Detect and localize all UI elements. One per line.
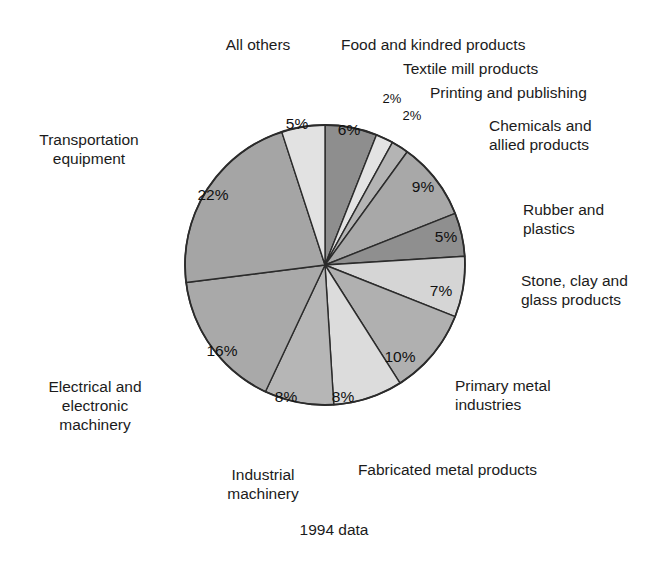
pie-slice-value-label: 6% [338, 121, 361, 138]
pie-slice-value-label: 7% [430, 282, 453, 299]
callout-chemicals-and-allied-products: Chemicals and allied products [489, 117, 664, 155]
pie-slice-value-label: 5% [435, 228, 458, 245]
callout-electrical-and-electronic-machinery: Electrical and electronic machinery [20, 378, 170, 435]
callout-stone-clay-and-glass-products: Stone, clay and glass products [521, 272, 668, 310]
chart-caption: 1994 data [234, 521, 434, 539]
callout-fabricated-metal-products: Fabricated metal products [340, 461, 555, 480]
pie-slice-value-label: 16% [206, 342, 237, 359]
callout-primary-metal-industries: Primary metal industries [455, 377, 640, 415]
callout-industrial-machinery: Industrial machinery [198, 466, 328, 504]
pie-slice-value-label: 5% [286, 115, 309, 132]
callout-printing-and-publishing: Printing and publishing [430, 84, 668, 103]
pie-slice-value-label: 8% [275, 388, 298, 405]
callout-transportation-equipment: Transportation equipment [14, 131, 164, 169]
pie-chart-figure: 6%2%2%9%5%7%10%8%8%16%22%5% All others F… [0, 0, 668, 572]
pie-slice-value-label: 10% [384, 348, 415, 365]
callout-rubber-and-plastics: Rubber and plastics [523, 201, 668, 239]
pie-slice-value-label: 2% [383, 91, 402, 106]
callout-all-others: All others [198, 36, 318, 55]
pie-slice-value-label: 9% [412, 178, 435, 195]
pie-slice-value-label: 22% [197, 186, 228, 203]
pie-slice-value-label: 2% [403, 108, 422, 123]
pie-slice-group [185, 125, 465, 405]
callout-textile-mill-products: Textile mill products [403, 60, 663, 79]
pie-slice-value-label: 8% [332, 388, 355, 405]
callout-food-and-kindred-products: Food and kindred products [341, 36, 641, 55]
